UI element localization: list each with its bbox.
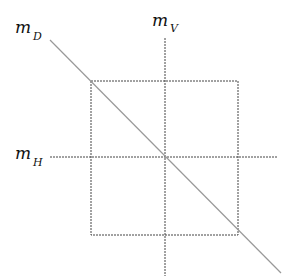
svg-text:H: H [32,156,43,169]
svg-text:m: m [15,143,31,163]
svg-text:D: D [32,30,42,43]
svg-text:m: m [152,10,168,30]
label-horizontal: m H [15,143,43,169]
symmetry-diagram: m D m V m H [0,0,293,280]
svg-text:m: m [15,17,31,37]
label-diagonal: m D [15,17,42,43]
label-vertical: m V [152,10,179,35]
svg-text:V: V [170,22,179,35]
